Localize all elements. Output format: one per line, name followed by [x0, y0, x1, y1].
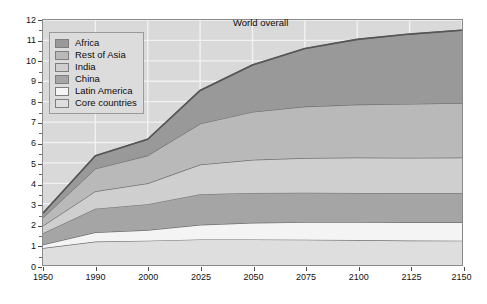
- y-tick-label: 3: [14, 201, 36, 210]
- legend-swatch-latin-america: [55, 87, 69, 96]
- world-overall-annotation: World overall: [233, 17, 288, 28]
- y-tick-label: 7: [14, 118, 36, 127]
- legend-label: Core countries: [75, 98, 137, 108]
- x-tick: [411, 267, 412, 271]
- x-tick: [148, 267, 149, 271]
- legend-label: Africa: [75, 38, 99, 48]
- y-tick-label: 4: [14, 180, 36, 189]
- legend-item: Core countries: [55, 97, 137, 109]
- legend-swatch-core-countries: [55, 99, 69, 108]
- legend-label: India: [75, 62, 96, 72]
- y-tick-label: 0: [14, 263, 36, 272]
- x-tick: [464, 267, 465, 271]
- legend-item: Latin America: [55, 85, 137, 97]
- legend-label: Rest of Asia: [75, 50, 126, 60]
- x-tick-label: 2000: [138, 272, 158, 282]
- y-tick-label: 5: [14, 160, 36, 169]
- y-tick-label: 2: [14, 221, 36, 230]
- chart-legend: Africa Rest of Asia India China Latin Am…: [49, 32, 144, 114]
- y-tick-label: 1: [14, 242, 36, 251]
- x-axis: 195019902000202520502075210021252150: [42, 267, 464, 297]
- x-tick-label: 2025: [191, 272, 211, 282]
- x-tick: [96, 267, 97, 271]
- x-tick-label: 2075: [296, 272, 316, 282]
- x-tick: [43, 267, 44, 271]
- legend-item: India: [55, 61, 137, 73]
- legend-swatch-china: [55, 75, 69, 84]
- legend-swatch-africa: [55, 39, 69, 48]
- legend-swatch-rest-of-asia: [55, 51, 69, 60]
- x-tick: [201, 267, 202, 271]
- legend-item: China: [55, 73, 137, 85]
- x-tick-label: 2150: [452, 272, 472, 282]
- y-axis: 0123456789101112: [0, 19, 42, 267]
- x-tick-label: 1990: [86, 272, 106, 282]
- area-band: [43, 239, 462, 265]
- x-tick-label: 2100: [349, 272, 369, 282]
- legend-label: Latin America: [75, 86, 133, 96]
- chart-figure: 0123456789101112 19501990200020252050207…: [0, 0, 487, 304]
- x-tick-label: 1950: [33, 272, 53, 282]
- x-tick-label: 2050: [243, 272, 263, 282]
- x-tick: [359, 267, 360, 271]
- x-tick: [306, 267, 307, 271]
- y-tick-label: 6: [14, 139, 36, 148]
- y-tick-label: 11: [14, 36, 36, 45]
- y-tick-label: 12: [14, 16, 36, 25]
- y-tick-label: 10: [14, 57, 36, 66]
- legend-label: China: [75, 74, 100, 84]
- legend-swatch-india: [55, 63, 69, 72]
- y-tick-label: 8: [14, 98, 36, 107]
- x-tick-label: 2125: [401, 272, 421, 282]
- legend-item: Rest of Asia: [55, 49, 137, 61]
- x-tick: [254, 267, 255, 271]
- legend-item: Africa: [55, 37, 137, 49]
- y-tick-label: 9: [14, 77, 36, 86]
